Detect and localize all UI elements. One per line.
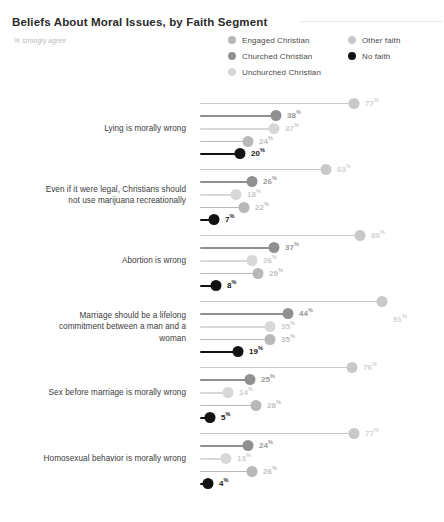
row-value-number: 29 — [269, 268, 278, 277]
row-dot[interactable] — [233, 346, 244, 357]
group-rows: 77%24%13%26%4% — [200, 426, 444, 492]
data-row[interactable]: 91% — [200, 296, 444, 308]
row-dot[interactable] — [247, 176, 258, 187]
group-rows: 63%26%18%22%7% — [200, 162, 444, 228]
row-dot[interactable] — [253, 268, 264, 279]
data-row[interactable]: 76% — [200, 362, 444, 374]
data-row[interactable]: 35% — [200, 334, 444, 346]
legend-item-churched-christian[interactable]: Churched Christian — [228, 48, 348, 64]
row-dot[interactable] — [349, 98, 360, 109]
data-row[interactable]: 24% — [200, 136, 444, 148]
data-row[interactable]: 37% — [200, 123, 444, 135]
row-dot[interactable] — [251, 400, 262, 411]
row-dot[interactable] — [211, 280, 222, 291]
legend-column-secondary: Other faithNo faith — [348, 32, 440, 80]
data-row[interactable]: 26% — [200, 176, 444, 188]
legend-item-engaged-christian[interactable]: Engaged Christian — [228, 32, 348, 48]
group-label-line: commitment between a man and a — [0, 321, 186, 333]
data-row[interactable]: 63% — [200, 164, 444, 176]
data-row[interactable]: 19% — [200, 346, 444, 358]
data-row[interactable]: 5% — [200, 412, 444, 424]
data-row[interactable]: 8% — [200, 280, 444, 292]
data-row[interactable]: 14% — [200, 387, 444, 399]
row-dot[interactable] — [223, 387, 234, 398]
row-value-label: 77% — [365, 97, 379, 108]
row-value-label: 5% — [221, 411, 231, 422]
legend-item-unchurched-christian[interactable]: Unchurched Christian — [228, 64, 348, 80]
row-value-number: 44 — [299, 309, 308, 318]
row-value-label: 13% — [237, 452, 251, 463]
row-value-label: 37% — [285, 241, 299, 252]
legend-item-no-faith[interactable]: No faith — [348, 48, 440, 64]
row-dot[interactable] — [231, 189, 242, 200]
row-dot[interactable] — [221, 453, 232, 464]
data-row[interactable]: 4% — [200, 478, 444, 490]
data-row[interactable]: 28% — [200, 400, 444, 412]
data-row[interactable]: 26% — [200, 255, 444, 267]
data-row[interactable]: 77% — [200, 98, 444, 110]
percent-symbol: % — [346, 163, 351, 169]
row-dot[interactable] — [203, 478, 214, 489]
data-row[interactable]: 44% — [200, 308, 444, 320]
row-dot[interactable] — [243, 440, 254, 451]
row-dot[interactable] — [265, 334, 276, 345]
legend-swatch-icon — [348, 36, 356, 44]
data-row[interactable]: 22% — [200, 202, 444, 214]
row-value-number: 18 — [247, 190, 256, 199]
data-row[interactable]: 13% — [200, 453, 444, 465]
row-dot[interactable] — [265, 321, 276, 332]
percent-symbol: % — [294, 122, 299, 128]
row-value-number: 26 — [263, 256, 272, 265]
row-dot[interactable] — [269, 123, 280, 134]
data-row[interactable]: 24% — [200, 440, 444, 452]
percent-symbol: % — [372, 361, 377, 367]
data-row[interactable]: 26% — [200, 466, 444, 478]
row-dot[interactable] — [283, 308, 294, 319]
row-dot[interactable] — [235, 148, 246, 159]
data-row[interactable]: 37% — [200, 242, 444, 254]
row-dot[interactable] — [243, 136, 254, 147]
row-dot[interactable] — [245, 374, 256, 385]
row-dot[interactable] — [349, 428, 360, 439]
chart-legend: Engaged ChristianChurched ChristianUnchu… — [228, 32, 440, 80]
data-row[interactable]: 77% — [200, 428, 444, 440]
percent-symbol: % — [224, 477, 229, 483]
data-row[interactable]: 18% — [200, 189, 444, 201]
row-value-label: 25% — [261, 373, 275, 384]
row-dot[interactable] — [355, 230, 366, 241]
chart-group: Marriage should be a lifelongcommitment … — [0, 294, 444, 360]
data-row[interactable]: 38% — [200, 110, 444, 122]
row-dot[interactable] — [321, 164, 332, 175]
row-stem — [200, 379, 246, 381]
row-stem — [200, 339, 266, 341]
row-value-number: 25 — [261, 375, 270, 384]
legend-swatch-icon — [228, 68, 236, 76]
row-dot[interactable] — [377, 296, 388, 307]
legend-item-label: Unchurched Christian — [242, 68, 321, 77]
dot-plot-chart: Lying is morally wrong77%38%37%24%20%Eve… — [0, 96, 444, 492]
percent-symbol: % — [268, 135, 273, 141]
data-row[interactable]: 80% — [200, 230, 444, 242]
row-stem — [200, 141, 244, 143]
row-dot[interactable] — [247, 466, 258, 477]
row-dot[interactable] — [347, 362, 358, 373]
row-value-label: 20% — [251, 147, 265, 158]
row-value-number: 37 — [285, 124, 294, 133]
row-dot[interactable] — [209, 214, 220, 225]
row-dot[interactable] — [247, 255, 258, 266]
percent-symbol: % — [374, 427, 379, 433]
data-row[interactable]: 29% — [200, 268, 444, 280]
group-label-line: Homosexual behavior is morally wrong — [0, 453, 186, 465]
row-dot[interactable] — [269, 242, 280, 253]
data-row[interactable]: 20% — [200, 148, 444, 160]
group-label: Even if it were legal, Christians should… — [0, 184, 200, 207]
row-stem — [200, 405, 252, 407]
row-dot[interactable] — [271, 110, 282, 121]
legend-item-other-faith[interactable]: Other faith — [348, 32, 440, 48]
data-row[interactable]: 7% — [200, 214, 444, 226]
data-row[interactable]: 35% — [200, 321, 444, 333]
data-row[interactable]: 25% — [200, 374, 444, 386]
group-label: Abortion is wrong — [0, 255, 200, 267]
row-dot[interactable] — [205, 412, 216, 423]
row-dot[interactable] — [239, 202, 250, 213]
